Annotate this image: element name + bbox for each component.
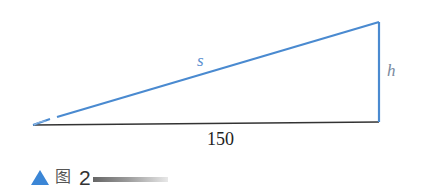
triangle-diagram: s h 150 — [0, 0, 421, 188]
triangle-figure-svg — [0, 0, 421, 188]
figure-number: 2 — [79, 167, 91, 188]
triangle-up-icon — [31, 170, 49, 185]
figure-prefix: 图 — [55, 169, 71, 185]
caption-gradient-bar — [93, 177, 168, 182]
height-label: h — [387, 62, 396, 79]
hypotenuse-label: s — [197, 52, 204, 69]
base-label: 150 — [207, 130, 234, 148]
figure-caption: 图 2 — [31, 167, 168, 187]
hypotenuse-line — [57, 22, 379, 117]
base-line — [33, 122, 379, 125]
